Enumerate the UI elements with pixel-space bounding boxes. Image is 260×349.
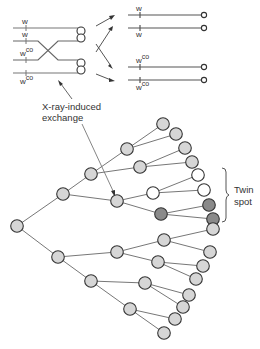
diagram-canvas: w w wco wco w w wco wco: [0, 0, 260, 349]
cell-root: [11, 220, 24, 233]
cell-node: [52, 251, 65, 264]
cell-leaf: [197, 260, 210, 273]
gene-label: w: [21, 17, 28, 26]
cell-white: [147, 187, 160, 200]
cell-leaf: [207, 223, 220, 236]
twin-spot-bracket: [222, 168, 229, 222]
cell-node: [121, 143, 134, 156]
gene-label: wco: [135, 80, 149, 92]
cell-node: [152, 256, 165, 269]
tree-nodes: [11, 118, 220, 340]
cell-node: [124, 303, 137, 316]
cell-leaf-white: [198, 184, 211, 197]
gene-label: w: [21, 30, 28, 39]
arrowheads: [108, 15, 115, 82]
gene-label: w: [135, 4, 142, 13]
cell-leaf: [158, 327, 171, 340]
annotation-line2: exchange: [42, 112, 83, 123]
cell-node: [139, 277, 152, 290]
gene-label: w: [135, 30, 142, 39]
cell-leaf-white: [192, 169, 205, 182]
cell-exchange: [111, 195, 124, 208]
cell-leaf-dark: [203, 199, 216, 212]
cell-leaf: [179, 142, 192, 155]
cell-dark: [155, 208, 168, 221]
cell-leaf: [169, 313, 182, 326]
exchange-annotation: X-ray-induced exchange: [42, 80, 115, 197]
cell-node: [57, 188, 70, 201]
pointer-line-to-tree: [82, 124, 114, 193]
chromatids-right: [128, 12, 202, 83]
segregation-arrows: [96, 17, 112, 80]
twin-spot-label-line1: Twin: [234, 184, 254, 195]
cell-leaf: [204, 246, 217, 259]
gene-label: wco: [19, 74, 33, 86]
telomere-ends: [201, 12, 206, 82]
cell-leaf: [170, 128, 183, 141]
gene-label: wco: [135, 53, 149, 65]
cell-leaf: [157, 118, 170, 131]
centromere-icon: [77, 34, 85, 42]
cell-leaf: [177, 301, 190, 314]
pointer-line: [61, 84, 72, 99]
annotation-line1: X-ray-induced: [42, 101, 101, 112]
right-gene-labels: w w wco wco: [135, 4, 149, 92]
cell-node: [85, 168, 98, 181]
cell-leaf: [186, 156, 199, 169]
twin-spot-label-line2: spot: [234, 196, 252, 207]
cell-node: [158, 234, 171, 247]
cell-node: [134, 161, 147, 174]
centromere-icon: [77, 66, 85, 74]
cell-node: [111, 246, 124, 259]
cell-node: [85, 275, 98, 288]
cell-leaf: [183, 289, 196, 302]
cell-leaf: [190, 273, 203, 286]
